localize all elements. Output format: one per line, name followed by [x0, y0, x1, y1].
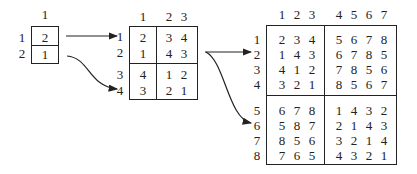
- cell: 3: [363, 104, 375, 117]
- row-label: 3: [114, 68, 126, 81]
- cell: 7: [363, 33, 375, 46]
- col-label: 6: [363, 8, 375, 21]
- cell: 2: [306, 63, 318, 76]
- cell: 8: [363, 48, 375, 61]
- cell: 4: [306, 33, 318, 46]
- row-label: 3: [251, 63, 263, 76]
- cell: 4: [291, 48, 303, 61]
- cell: 1: [306, 78, 318, 91]
- col-label: 3: [306, 8, 318, 21]
- cell: 2: [178, 68, 190, 81]
- cell: 8: [276, 134, 288, 147]
- cell: 1: [276, 48, 288, 61]
- row-label: 1: [251, 33, 263, 46]
- row-label: 4: [114, 84, 126, 97]
- cell: 2: [39, 31, 51, 44]
- cell: 1: [363, 134, 375, 147]
- row-label: 2: [251, 48, 263, 61]
- col-label: 2: [163, 10, 175, 23]
- cell: 4: [363, 119, 375, 132]
- col-label: 1: [39, 8, 51, 21]
- cell: 4: [137, 68, 149, 81]
- row-label: 2: [114, 46, 126, 59]
- cell: 7: [276, 149, 288, 162]
- col-label: 5: [348, 8, 360, 21]
- col-label: 4: [333, 8, 345, 21]
- col-label: 2: [291, 8, 303, 21]
- cell: 1: [333, 104, 345, 117]
- cell: 7: [291, 104, 303, 117]
- cell: 5: [333, 33, 345, 46]
- divider: [266, 95, 397, 96]
- cell: 2: [137, 31, 149, 44]
- cell: 3: [333, 134, 345, 147]
- col-label: 7: [378, 8, 390, 21]
- row-label: 1: [114, 30, 126, 43]
- cell: 4: [276, 63, 288, 76]
- cell: 6: [291, 149, 303, 162]
- cell: 7: [333, 63, 345, 76]
- row-label: 6: [251, 119, 263, 132]
- cell: 3: [178, 47, 190, 60]
- col-label: 1: [137, 10, 149, 23]
- cell: 3: [378, 119, 390, 132]
- col-label: 3: [178, 10, 190, 23]
- cell: 1: [348, 119, 360, 132]
- cell: 7: [348, 48, 360, 61]
- cell: 8: [306, 104, 318, 117]
- cell: 2: [276, 33, 288, 46]
- row-label: 5: [251, 104, 263, 117]
- cell: 3: [291, 33, 303, 46]
- cell: 1: [378, 149, 390, 162]
- cell: 1: [137, 47, 149, 60]
- cell: 2: [333, 119, 345, 132]
- divider: [129, 63, 198, 64]
- cell: 3: [306, 48, 318, 61]
- cell: 4: [378, 134, 390, 147]
- cell: 6: [276, 104, 288, 117]
- cell: 2: [291, 78, 303, 91]
- cell: 5: [276, 119, 288, 132]
- row-label: 4: [251, 78, 263, 91]
- cell: 5: [378, 48, 390, 61]
- cell: 8: [378, 33, 390, 46]
- cell: 2: [378, 104, 390, 117]
- cell: 3: [163, 31, 175, 44]
- cell: 5: [291, 134, 303, 147]
- cell: 3: [137, 84, 149, 97]
- cell: 7: [378, 78, 390, 91]
- cell: 5: [363, 63, 375, 76]
- row-label: 8: [251, 149, 263, 162]
- cell: 2: [348, 134, 360, 147]
- cell: 4: [333, 149, 345, 162]
- cell: 3: [276, 78, 288, 91]
- cell: 5: [306, 149, 318, 162]
- cell: 2: [363, 149, 375, 162]
- cell: 6: [378, 63, 390, 76]
- cell: 1: [163, 68, 175, 81]
- divider: [31, 45, 59, 46]
- cell: 4: [348, 104, 360, 117]
- cell: 2: [163, 84, 175, 97]
- cell: 7: [306, 119, 318, 132]
- cell: 1: [39, 48, 51, 61]
- cell: 4: [178, 31, 190, 44]
- cell: 6: [333, 48, 345, 61]
- row-label: 2: [16, 47, 28, 60]
- cell: 8: [348, 63, 360, 76]
- cell: 6: [306, 134, 318, 147]
- cell: 4: [163, 47, 175, 60]
- cell: 1: [291, 63, 303, 76]
- row-label: 7: [251, 134, 263, 147]
- cell: 3: [348, 149, 360, 162]
- cell: 6: [348, 33, 360, 46]
- cell: 8: [291, 119, 303, 132]
- cell: 1: [178, 84, 190, 97]
- arrow-medium-to-large-row6: [206, 52, 251, 123]
- row-label: 1: [16, 31, 28, 44]
- cell: 6: [363, 78, 375, 91]
- arrow-small-to-medium-row4: [67, 56, 117, 89]
- cell: 5: [348, 78, 360, 91]
- col-label: 1: [276, 8, 288, 21]
- cell: 8: [333, 78, 345, 91]
